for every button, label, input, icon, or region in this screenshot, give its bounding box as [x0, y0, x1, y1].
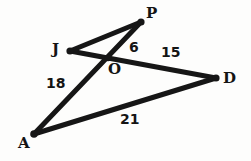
- vertex-label-A: A: [18, 136, 30, 151]
- vertex-dot-A: [30, 130, 38, 138]
- measurement-label-AO: 18: [46, 76, 65, 90]
- vertex-dot-P: [137, 18, 144, 25]
- vertex-label-P: P: [146, 6, 157, 21]
- vertex-label-J: J: [52, 42, 59, 57]
- vertex-dot-J: [66, 47, 73, 54]
- vertex-dot-D: [212, 74, 219, 81]
- measurement-label-OP: 6: [129, 40, 139, 54]
- diagram-canvas: [0, 0, 251, 161]
- measurement-label-OD: 15: [161, 45, 180, 59]
- measurement-label-AD: 21: [120, 112, 139, 126]
- vertex-label-D: D: [223, 71, 236, 86]
- vertex-label-O: O: [108, 62, 121, 77]
- geometry-diagram: P J O D A 6 15 18 21: [0, 0, 251, 161]
